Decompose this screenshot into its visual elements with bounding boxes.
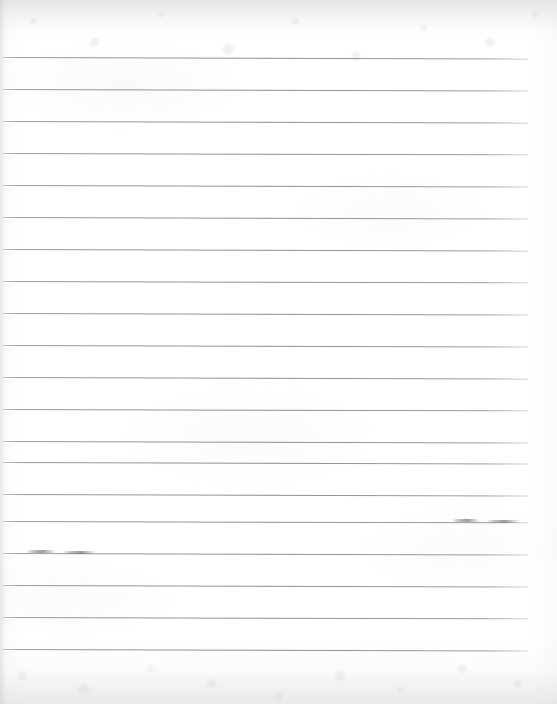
scanned-paper-page <box>0 0 557 704</box>
paper-background <box>0 0 557 704</box>
